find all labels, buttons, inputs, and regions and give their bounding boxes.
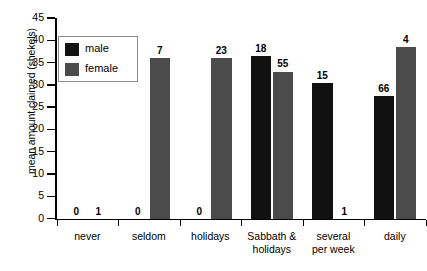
x-axis-tick (180, 220, 181, 226)
y-axis-tick-label: 15 (20, 145, 44, 157)
y-axis-tick-label: 40 (20, 33, 44, 45)
bar-value-label-female-1: 7 (146, 45, 174, 56)
y-axis-tick-label: 30 (20, 78, 44, 90)
y-axis-tick-label: 35 (20, 56, 44, 68)
bar-female-1 (150, 58, 171, 218)
y-axis-tick (47, 17, 55, 18)
bar-value-label-female-2: 23 (207, 45, 235, 56)
y-axis-tick-label: 5 (20, 189, 44, 201)
x-axis-tick (241, 220, 242, 226)
x-axis-category-label-5: daily (352, 230, 427, 243)
legend-swatch-female-icon (65, 63, 79, 76)
y-axis-tick-label: 20 (20, 122, 44, 134)
y-axis-tick (47, 62, 55, 63)
legend: male female (58, 36, 138, 82)
bar-value-label-male-2: 0 (185, 206, 213, 217)
bar-male-4 (312, 83, 333, 219)
bar-value-label-male-1: 0 (124, 206, 152, 217)
y-axis-tick-label: 10 (20, 167, 44, 179)
legend-swatch-male-icon (65, 43, 79, 56)
legend-label-female: female (85, 62, 118, 74)
y-axis-tick (47, 84, 55, 85)
y-axis-tick (47, 173, 55, 174)
bar-female-2 (211, 58, 232, 218)
x-axis-label-line: per week (290, 243, 376, 256)
bar-value-label-female-5: 4 (392, 34, 420, 45)
bar-value-label-female-0: 1 (84, 206, 112, 217)
bar-female-3 (273, 72, 294, 219)
x-axis-tick (303, 220, 304, 226)
bar-female-5 (396, 47, 417, 219)
bar-value-label-male-5: 66 (370, 83, 398, 94)
y-axis-tick-label: 0 (20, 212, 44, 224)
y-axis-tick (47, 151, 55, 152)
bar-male-5 (374, 96, 395, 219)
y-axis-tick (47, 106, 55, 107)
bar-value-label-female-3: 55 (269, 58, 297, 69)
bar-value-label-female-4: 1 (330, 206, 358, 217)
bar-chart: mean amount claimed (shekels) 0510152025… (0, 0, 427, 271)
legend-label-male: male (85, 42, 109, 54)
y-axis-tick (47, 129, 55, 130)
y-axis-tick-label: 25 (20, 100, 44, 112)
y-axis-tick-label: 45 (20, 11, 44, 23)
x-axis-tick (57, 220, 58, 226)
x-axis-tick (118, 220, 119, 226)
x-axis-tick (364, 220, 365, 226)
bar-value-label-male-3: 18 (247, 43, 275, 54)
bar-male-3 (251, 56, 272, 219)
y-axis-tick (47, 196, 55, 197)
y-axis-tick (47, 40, 55, 41)
x-axis-label-line: daily (352, 230, 427, 243)
bar-value-label-male-4: 15 (308, 70, 336, 81)
y-axis-tick (47, 218, 55, 219)
